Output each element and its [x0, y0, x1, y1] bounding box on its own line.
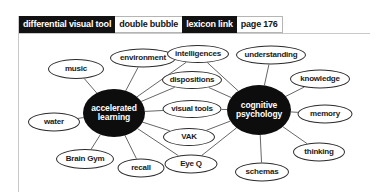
node-label: VAK — [181, 133, 197, 141]
tab-differential-visual-tool[interactable]: differential visual tool — [19, 16, 115, 33]
node-label: memory — [310, 110, 340, 118]
node-label: Brain Gym — [66, 155, 105, 163]
node-label: accelerated learning — [83, 104, 145, 121]
node-water[interactable]: water — [28, 113, 80, 132]
node-eye-q[interactable]: Eye Q — [165, 155, 218, 174]
node-understanding[interactable]: understanding — [236, 46, 306, 65]
edge-music-to-accelerated-learning — [84, 79, 97, 93]
edge-vak-to-accelerated-learning — [143, 122, 170, 131]
node-knowledge[interactable]: knowledge — [290, 70, 350, 89]
node-label: music — [65, 65, 87, 73]
tab-bar: differential visual tooldouble bubblelex… — [19, 16, 283, 33]
node-intelligences[interactable]: intelligences — [167, 45, 229, 63]
edge-environment-to-accelerated-learning — [126, 67, 138, 90]
edge-thinking-to-cognitive-psychology — [283, 127, 307, 144]
tab-double-bubble[interactable]: double bubble — [115, 16, 182, 33]
edge-brain-gym-to-accelerated-learning — [91, 135, 100, 150]
node-music[interactable]: music — [48, 59, 104, 79]
edge-recall-to-accelerated-learning — [125, 135, 136, 158]
node-thinking[interactable]: thinking — [293, 143, 345, 162]
double-bubble-map: accelerated learningcognitive psychology… — [0, 33, 376, 192]
edge-dispositions-to-cognitive-psychology — [209, 87, 232, 97]
edge-understanding-to-cognitive-psychology — [264, 64, 269, 85]
tab-lexicon-link[interactable]: lexicon link — [182, 16, 237, 33]
edge-visual-tools-to-accelerated-learning — [145, 110, 163, 111]
node-accelerated-learning[interactable]: accelerated learning — [83, 89, 145, 137]
edge-vak-to-cognitive-psychology — [206, 121, 230, 130]
node-label: visual tools — [171, 105, 213, 113]
node-vak[interactable]: VAK — [163, 128, 215, 146]
node-label: environment — [120, 54, 166, 62]
edge-dispositions-to-accelerated-learning — [141, 87, 174, 101]
tab-page-176[interactable]: page 176 — [237, 16, 283, 33]
node-cognitive-psychology[interactable]: cognitive psychology — [227, 85, 291, 135]
node-memory[interactable]: memory — [298, 105, 353, 124]
node-label: thinking — [304, 148, 334, 156]
node-label: dispositions — [170, 76, 215, 84]
edge-schemas-to-cognitive-psychology — [260, 135, 261, 163]
node-environment[interactable]: environment — [110, 49, 176, 68]
node-label: cognitive psychology — [227, 101, 291, 118]
node-label: recall — [131, 164, 151, 172]
node-brain-gym[interactable]: Brain Gym — [56, 149, 114, 169]
node-dispositions[interactable]: dispositions — [162, 71, 222, 89]
node-label: knowledge — [300, 75, 340, 83]
node-label: intelligences — [175, 50, 221, 58]
node-visual-tools[interactable]: visual tools — [163, 100, 222, 118]
node-label: Eye Q — [180, 160, 202, 168]
node-label: understanding — [245, 51, 298, 59]
node-label: water — [44, 118, 64, 126]
screenshot-root: differential visual tooldouble bubblelex… — [0, 0, 376, 192]
node-schemas[interactable]: schemas — [235, 163, 289, 182]
edge-knowledge-to-cognitive-psychology — [286, 87, 304, 96]
node-recall[interactable]: recall — [118, 159, 165, 178]
node-label: schemas — [246, 168, 279, 176]
